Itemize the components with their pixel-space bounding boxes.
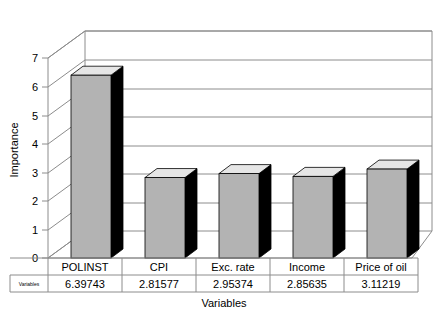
- table-column-header: POLINST: [61, 261, 108, 273]
- y-tick-label: 6: [32, 81, 38, 93]
- bar-chart-svg: 7 6 5 4 3 2 1 0 Importance Var: [0, 0, 448, 312]
- bar-front-face: [293, 176, 333, 258]
- table-column-header: Price of oil: [355, 261, 406, 273]
- bar-price-of-oil: [367, 160, 419, 258]
- y-tick-label: 7: [32, 52, 38, 64]
- y-tick-label: 3: [32, 167, 38, 179]
- bar-side-face: [333, 167, 345, 258]
- y-tick-label: 5: [32, 110, 38, 122]
- y-tick-label: 4: [32, 138, 38, 150]
- y-axis-ticks: [42, 58, 48, 258]
- bar-front-face: [71, 75, 111, 258]
- bar-front-face: [145, 178, 185, 258]
- table-cell-value: 2.81577: [139, 278, 179, 290]
- bar-polinst: [71, 66, 123, 258]
- table-column-header: CPI: [150, 261, 168, 273]
- table-column-header: Income: [289, 261, 325, 273]
- bar-series: [71, 66, 419, 258]
- bar-front-face: [219, 174, 259, 258]
- table-cell-value: 2.85635: [287, 278, 327, 290]
- bar-income: [293, 167, 345, 258]
- bar-side-face: [111, 66, 123, 258]
- bar-side-face: [407, 160, 419, 258]
- table-column-header: Exc. rate: [211, 261, 254, 273]
- table-cell-value: 3.11219: [362, 278, 401, 290]
- chart-figure: 7 6 5 4 3 2 1 0 Importance Var: [0, 0, 448, 312]
- table-cell-value: 2.95374: [213, 278, 253, 290]
- y-axis-title: Importance: [8, 122, 20, 177]
- y-tick-label: 2: [32, 195, 38, 207]
- x-axis-title: Variables: [201, 297, 247, 309]
- y-tick-label: 1: [32, 224, 38, 236]
- bar-cpi: [145, 169, 197, 258]
- bar-front-face: [367, 169, 407, 258]
- data-table: Variables POLINST CPI Exc. rate Income P…: [10, 258, 418, 292]
- bar-exc-rate: [219, 165, 271, 258]
- bar-side-face: [185, 169, 197, 258]
- table-row-header: Variables: [19, 281, 40, 287]
- bar-side-face: [259, 165, 271, 258]
- table-cell-value: 6.39743: [65, 278, 105, 290]
- y-tick-labels: 7 6 5 4 3 2 1 0: [32, 52, 38, 264]
